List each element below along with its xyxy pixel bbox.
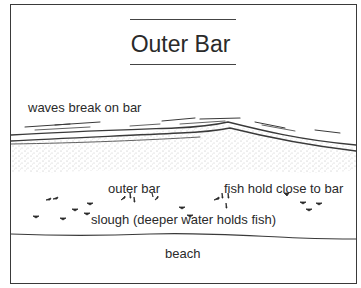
- slough-label: slough (deeper water holds fish): [91, 212, 276, 227]
- outer-bar-label: outer bar: [108, 181, 160, 196]
- sandbar-area: [11, 124, 356, 173]
- fish-hold-label: fish hold close to bar: [224, 181, 343, 196]
- waves-label: waves break on bar: [28, 100, 141, 115]
- shoreline: [11, 233, 356, 239]
- beach-label: beach: [165, 246, 200, 261]
- outer-bar-illustration: [0, 0, 361, 288]
